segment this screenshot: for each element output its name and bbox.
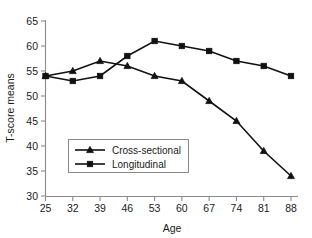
x-axis-ticks: 25323946536067748188	[40, 197, 297, 215]
square-marker	[43, 73, 48, 78]
x-axis-title: Age	[163, 222, 182, 234]
triangle-marker	[97, 57, 104, 63]
x-tick-label: 53	[149, 202, 161, 214]
legend-label: Cross-sectional	[112, 145, 181, 156]
x-tick-label: 60	[176, 202, 188, 214]
y-axis-title: T-score means	[4, 73, 16, 142]
square-marker	[70, 78, 75, 83]
square-marker	[179, 43, 184, 48]
square-marker	[87, 161, 92, 166]
x-tick-label: 39	[94, 202, 106, 214]
x-tick-label: 67	[203, 202, 215, 214]
legend-label: Longitudinal	[112, 159, 166, 170]
square-marker	[97, 73, 102, 78]
y-tick-label: 30	[26, 190, 38, 202]
x-tick-label: 46	[121, 202, 133, 214]
chart-legend: Cross-sectionalLongitudinal	[69, 140, 189, 173]
x-tick-label: 81	[258, 202, 270, 214]
y-axis-ticks: 3035404550556065	[26, 15, 45, 202]
y-tick-label: 35	[26, 165, 38, 177]
square-marker	[234, 58, 239, 63]
y-tick-label: 60	[26, 40, 38, 52]
y-tick-label: 65	[26, 15, 38, 27]
square-marker	[261, 63, 266, 68]
y-tick-label: 45	[26, 115, 38, 127]
chart-figure: 3035404550556065 25323946536067748188 Ag…	[0, 0, 312, 238]
series-line	[46, 41, 292, 81]
square-marker	[152, 38, 157, 43]
square-marker	[125, 53, 130, 58]
y-tick-label: 55	[26, 65, 38, 77]
series-longitudinal	[43, 38, 294, 83]
square-marker	[206, 48, 211, 53]
x-tick-label: 88	[285, 202, 297, 214]
line-chart: 3035404550556065 25323946536067748188 Ag…	[0, 0, 312, 238]
y-tick-label: 40	[26, 140, 38, 152]
x-tick-label: 25	[40, 202, 52, 214]
x-tick-label: 32	[67, 202, 79, 214]
square-marker	[288, 73, 293, 78]
x-tick-label: 74	[231, 202, 243, 214]
y-tick-label: 50	[26, 90, 38, 102]
